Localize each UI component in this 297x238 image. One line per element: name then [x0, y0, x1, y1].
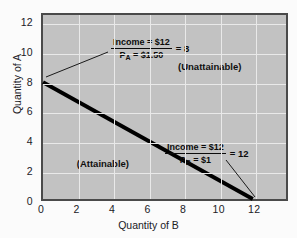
budget-constraint-chart: (Unattainable) (Attainable) Income = $12…	[0, 0, 297, 238]
price-b-subscript: B	[186, 159, 191, 166]
y-axis-tick-label: 0	[9, 195, 33, 207]
x-axis-tick-label: 0	[30, 203, 52, 215]
x-axis-tick-label: 12	[243, 203, 265, 215]
fraction-b-result: = 12	[230, 148, 249, 159]
gridline-horizontal	[43, 24, 286, 25]
y-axis-tick-label: 8	[9, 76, 33, 88]
x-axis-tick-label: 2	[66, 203, 88, 215]
x-axis-tick-label: 6	[137, 203, 159, 215]
y-axis-tick-label: 10	[9, 46, 33, 58]
price-a-subscript: A	[125, 54, 130, 61]
x-axis-tick-label: 4	[101, 203, 123, 215]
fraction-a: Income = $12 PA = $1.50	[111, 37, 172, 61]
gridline-vertical	[256, 15, 257, 199]
y-axis-tick-label: 2	[9, 165, 33, 177]
fraction-a-result: = 8	[176, 43, 189, 54]
gridline-vertical	[185, 15, 186, 199]
y-axis-tick-label: 12	[9, 16, 33, 28]
price-b-value: = $1	[191, 155, 211, 165]
x-axis-tick-label: 8	[172, 203, 194, 215]
x-axis-title: Quantity of B	[0, 219, 297, 231]
x-axis-tick-label: 10	[208, 203, 230, 215]
gridline-horizontal	[43, 54, 286, 55]
fraction-b-denominator: PB = $1	[178, 154, 213, 165]
gridline-horizontal	[43, 84, 286, 85]
gridline-horizontal	[43, 113, 286, 114]
y-axis-tick-label: 4	[9, 135, 33, 147]
gridline-vertical	[150, 15, 151, 199]
gridline-vertical	[221, 15, 222, 199]
gridline-horizontal	[43, 143, 286, 144]
plot-area: (Unattainable) (Attainable) Income = $12…	[41, 13, 288, 201]
gridline-vertical	[79, 15, 80, 199]
x-intercept-annotation: Income = $12 PB = $1 = 12	[165, 142, 249, 166]
price-a-value: = $1.50	[131, 50, 164, 60]
unattainable-region-label: (Unattainable)	[178, 61, 241, 72]
fraction-a-denominator: PA = $1.50	[117, 49, 165, 60]
y-axis-tick-label: 6	[9, 105, 33, 117]
gridline-vertical	[114, 15, 115, 199]
fraction-b: Income = $12 PB = $1	[165, 142, 226, 166]
gridline-horizontal	[43, 173, 286, 174]
fraction-a-numerator: Income = $12	[111, 37, 172, 49]
attainable-region-label: (Attainable)	[77, 158, 129, 169]
